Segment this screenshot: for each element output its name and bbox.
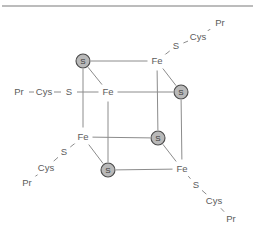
structure-canvas: SSSS FeFeFeFeSCysPrSCysPrSCysPrSCysPr (0, 0, 255, 236)
ligand-top-right-label-s-0: S (173, 40, 179, 51)
ligand-top-right-bond-0 (164, 51, 169, 55)
atom-label-layer: FeFeFeFeSCysPrSCysPrSCysPrSCysPr (9, 17, 241, 226)
ligand-bottom-left-label-cys-1: Cys (38, 162, 55, 173)
sulfide-label-s-front-bot-left: S (105, 166, 110, 175)
ligand-bottom-right-label-s-0: S (193, 179, 199, 190)
iron-label-fe-front-bot-right: Fe (176, 163, 187, 174)
ligand-bottom-right-label-cys-1: Cys (206, 195, 223, 206)
ligand-bottom-right-bond-2 (221, 208, 224, 211)
sulfide-label-s-front-top-right: S (178, 88, 183, 97)
ligand-bottom-left-bond-2 (35, 174, 38, 177)
ligand-top-right-label-cys-1: Cys (190, 31, 207, 42)
ligand-left-label-s-0: S (66, 86, 72, 97)
bond-s-back-top-left-fe-front-top-left (88, 67, 102, 84)
iron-label-fe-back-bot-left: Fe (77, 131, 88, 142)
ligand-bottom-left-label-s-0: S (61, 146, 67, 157)
ligand-top-right-label-pr-2: Pr (215, 17, 225, 28)
bond-fe-back-top-right-s-front-top-right (163, 69, 176, 86)
ligand-left-label-cys-1: Cys (36, 86, 53, 97)
ligand-left-label-pr-2: Pr (14, 86, 24, 97)
iron-label-fe-front-top-left: Fe (102, 86, 113, 97)
ligand-bottom-right-bond-0 (188, 176, 190, 179)
bond-fe-back-top-right-s-back-bot-right (157, 70, 158, 130)
bond-fe-back-bot-left-s-back-bot-right (92, 137, 150, 138)
bond-layer (83, 61, 182, 170)
iron-sulfur-cluster-figure: SSSS FeFeFeFeSCysPrSCysPrSCysPrSCysPr (0, 0, 255, 236)
ligand-bottom-right-bond-1 (202, 190, 207, 194)
ligand-bottom-left-bond-1 (53, 157, 58, 161)
sulfide-label-s-back-bot-right: S (155, 134, 160, 143)
bond-fe-back-bot-left-s-front-bot-left (89, 145, 103, 164)
bond-s-front-bot-left-fe-front-bot-right (116, 169, 173, 170)
ligand-top-right-bond-1 (183, 41, 188, 43)
sulfide-label-s-back-top-left: S (80, 57, 85, 66)
ligand-bottom-left-label-pr-2: Pr (22, 177, 32, 188)
bond-s-front-top-right-fe-front-bot-right (181, 100, 182, 160)
ligand-bottom-right-label-pr-2: Pr (226, 213, 236, 224)
ligand-bottom-left-bond-0 (70, 143, 75, 147)
bond-s-back-bot-right-fe-front-bot-right (163, 144, 176, 161)
iron-label-fe-back-top-right: Fe (151, 55, 162, 66)
